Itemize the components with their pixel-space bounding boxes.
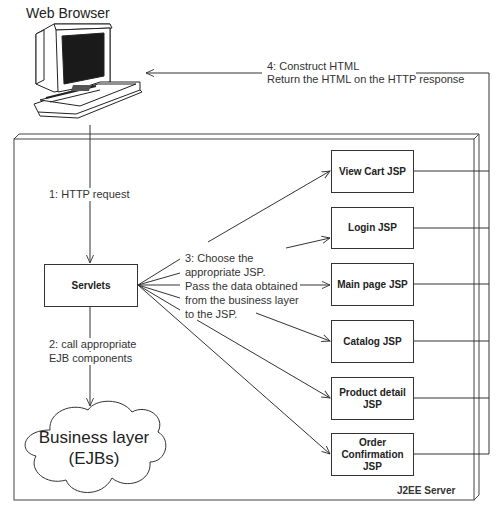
step2-label-line2: EJB components xyxy=(49,352,132,365)
step3-label-line5: to the JSP. xyxy=(185,308,237,321)
step1-label: 1: HTTP request xyxy=(49,188,130,201)
step3-label-line3: Pass the data obtained xyxy=(185,280,298,293)
order-confirmation-jsp-label-line3: JSP xyxy=(363,461,382,473)
catalog-jsp-box: Catalog JSP xyxy=(331,320,414,363)
view-cart-jsp-label: View Cart JSP xyxy=(339,166,406,178)
step3-label-line2: appropriate JSP. xyxy=(185,266,266,279)
order-confirmation-jsp-box: Order Confirmation JSP xyxy=(331,433,414,476)
login-jsp-label: Login JSP xyxy=(348,222,397,234)
product-detail-jsp-box: Product detail JSP xyxy=(331,377,414,420)
business-layer-line1: Business layer xyxy=(36,427,152,448)
j2ee-server-label: J2EE Server xyxy=(397,484,455,497)
step4-label-line2: Return the HTML on the HTTP response xyxy=(267,73,464,86)
product-detail-jsp-label-line2: JSP xyxy=(363,399,382,411)
main-page-jsp-label: Main page JSP xyxy=(337,279,408,291)
step2-label-line1: 2: call appropriate xyxy=(49,338,136,351)
step3-label-line4: from the business layer xyxy=(185,294,299,307)
step4-label-line1: 4: Construct HTML xyxy=(267,60,359,73)
product-detail-jsp-label-line1: Product detail xyxy=(339,387,406,399)
web-browser-label: Web Browser xyxy=(26,5,110,21)
computer-icon xyxy=(34,24,142,118)
view-cart-jsp-box: View Cart JSP xyxy=(331,150,414,193)
main-page-jsp-box: Main page JSP xyxy=(331,263,414,306)
servlets-label: Servlets xyxy=(72,280,111,292)
business-layer-label: Business layer (EJBs) xyxy=(36,427,152,469)
servlets-box: Servlets xyxy=(44,264,138,307)
business-layer-line2: (EJBs) xyxy=(36,448,152,469)
order-confirmation-jsp-label-line2: Confirmation xyxy=(341,449,403,461)
login-jsp-box: Login JSP xyxy=(331,207,414,249)
catalog-jsp-label: Catalog JSP xyxy=(343,336,401,348)
step3-label-line1: 3: Choose the xyxy=(185,252,254,265)
order-confirmation-jsp-label-line1: Order xyxy=(359,437,386,449)
